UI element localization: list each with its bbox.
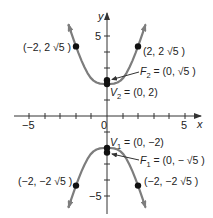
point-lower-right [135, 182, 141, 188]
y-tick-label-5: 5 [95, 30, 101, 42]
hyperbola-diagram: −5 0 5 x 5 −5 y [0, 0, 213, 218]
label-lower-right-point: (−2, −2 √5 ) [144, 175, 198, 187]
point-lower-left [73, 182, 79, 188]
label-upper-right-point: (2, 2 √5 ) [143, 45, 185, 57]
y-tick-label-neg5: −5 [89, 190, 102, 202]
label-vertex-v1: V1 = (0, −2) [110, 136, 164, 151]
label-focus-f1: F1 = (0, − √5 ) [140, 154, 205, 169]
x-tick-label-0: 0 [101, 119, 107, 131]
y-axis: 5 −5 y [89, 10, 110, 214]
x-tick-label-5: 5 [181, 119, 187, 131]
point-upper-left [73, 43, 79, 49]
point-focus-f1 [104, 149, 110, 155]
x-axis: −5 0 5 x [14, 113, 203, 131]
x-axis-label: x [196, 118, 203, 130]
y-axis-label: y [97, 10, 105, 22]
point-upper-right [135, 43, 141, 49]
label-upper-left-point: (−2, 2 √5 ) [23, 41, 71, 53]
label-vertex-v2: V2 = (0, 2) [110, 86, 158, 101]
x-tick-label-neg5: −5 [22, 119, 35, 131]
label-lower-left-point: (−2, −2 √5 ) [18, 175, 72, 187]
label-focus-f2: F2 = (0, √5 ) [140, 65, 196, 80]
